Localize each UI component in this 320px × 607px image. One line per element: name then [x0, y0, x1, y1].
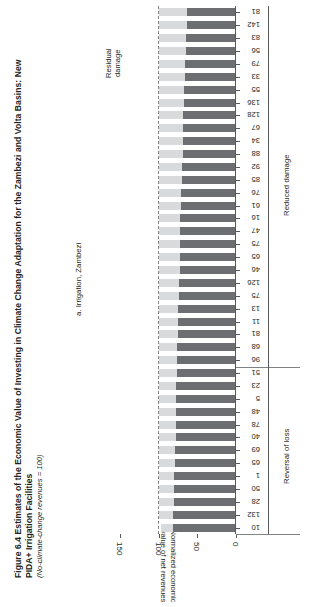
bar-segment-residual-damage: [159, 227, 181, 235]
bar-segment-residual-damage: [159, 202, 181, 210]
bar-segment-residual-damage: [159, 356, 178, 364]
bar-segment-residual-damage: [159, 446, 175, 454]
category-label: 55: [252, 85, 260, 94]
category-label: 126: [247, 278, 260, 287]
category-label: 1: [256, 471, 260, 480]
category-label: 48: [252, 407, 260, 416]
bar-segment-residual-damage: [159, 47, 186, 55]
panel-label: a. Irrigation, Zambezi: [74, 243, 83, 316]
category-label: 68: [252, 342, 260, 351]
category-label: 78: [252, 420, 260, 429]
stacked-bar: [159, 214, 236, 222]
figure-subtitle: (No-climate-change revenues = 100): [35, 6, 45, 578]
bar-segment-residual-damage: [159, 472, 174, 480]
category-tick: [236, 502, 240, 503]
bar-segment-residual-damage: [159, 73, 185, 81]
category-label: 56: [252, 46, 260, 55]
category-label: 65: [252, 458, 260, 467]
category-tick: [236, 437, 240, 438]
bar-segment-residual-damage: [159, 498, 174, 506]
bar-segment-reduced-damage: [185, 73, 236, 81]
stacked-bar: [159, 99, 236, 107]
value-axis-label: 50: [192, 542, 201, 551]
bar-segment-reduced-damage: [181, 202, 236, 210]
bar-segment-residual-damage: [159, 176, 182, 184]
stacked-bar: [161, 524, 236, 532]
category-tick: [236, 218, 240, 219]
bar-segment-residual-damage: [159, 318, 178, 326]
bar-segment-reduced-damage: [186, 34, 236, 42]
bar-segment-residual-damage: [159, 279, 179, 287]
category-label: 40: [252, 432, 260, 441]
bar-segment-reduced-damage: [175, 446, 236, 454]
stacked-bar: [159, 227, 236, 235]
stacked-bar: [159, 60, 236, 68]
category-label: 96: [252, 355, 260, 364]
value-axis-tick: [197, 534, 198, 538]
category-tick: [236, 103, 240, 104]
bar-segment-reduced-damage: [180, 240, 236, 248]
bar-segment-reduced-damage: [180, 227, 236, 235]
stacked-bar: [159, 137, 236, 145]
bar-segment-reduced-damage: [177, 369, 236, 377]
category-label: 81: [252, 7, 260, 16]
category-label: 10: [252, 523, 260, 532]
stacked-bar: [159, 382, 236, 390]
bar-segment-reduced-damage: [176, 382, 236, 390]
category-label: 28: [252, 497, 260, 506]
bar-segment-residual-damage: [159, 34, 186, 42]
bar-segment-residual-damage: [159, 343, 178, 351]
bar-series: [120, 6, 236, 534]
value-axis-label: 150: [115, 542, 124, 555]
category-tick: [236, 463, 240, 464]
bar-segment-reduced-damage: [184, 99, 236, 107]
stacked-bar: [159, 150, 236, 158]
category-label: 83: [252, 33, 260, 42]
bar-segment-reduced-damage: [187, 8, 236, 16]
category-label: 67: [252, 123, 260, 132]
bar-segment-residual-damage: [159, 86, 185, 94]
bar-segment-residual-damage: [159, 189, 181, 197]
bar-segment-residual-damage: [159, 305, 178, 313]
bar-segment-reduced-damage: [178, 330, 236, 338]
category-tick: [236, 167, 240, 168]
category-tick: [236, 64, 240, 65]
stacked-bar: [159, 305, 236, 313]
category-tick: [236, 450, 240, 451]
category-tick: [236, 206, 240, 207]
category-tick: [236, 283, 240, 284]
bar-segment-residual-damage: [159, 382, 177, 390]
stacked-bar: [159, 343, 236, 351]
category-tick: [236, 141, 240, 142]
category-tick: [236, 25, 240, 26]
bar-segment-residual-damage: [159, 240, 181, 248]
category-tick: [236, 334, 240, 335]
bar-segment-reduced-damage: [180, 253, 236, 261]
bar-segment-residual-damage: [161, 524, 173, 532]
category-label: 47: [252, 226, 260, 235]
bar-segment-residual-damage: [159, 8, 187, 16]
category-tick: [236, 51, 240, 52]
stacked-bar: [159, 240, 236, 248]
stacked-bar: [159, 511, 236, 519]
bar-segment-reduced-damage: [176, 395, 236, 403]
bar-segment-residual-damage: [159, 21, 187, 29]
bar-segment-reduced-damage: [174, 485, 236, 493]
bar-segment-residual-damage: [159, 433, 176, 441]
category-label: 46: [252, 265, 260, 274]
bar-segment-reduced-damage: [175, 459, 236, 467]
bar-segment-residual-damage: [159, 511, 174, 519]
category-tick: [236, 128, 240, 129]
category-label: 136: [247, 98, 260, 107]
stacked-bar: [159, 47, 236, 55]
group-bracket-line: [268, 6, 269, 367]
category-label: 33: [252, 72, 260, 81]
category-label: 142: [247, 20, 260, 29]
category-tick: [236, 412, 240, 413]
category-tick: [236, 270, 240, 271]
stacked-bar: [159, 86, 236, 94]
residual-damage-line-1: Residual: [104, 48, 113, 78]
category-tick: [236, 90, 240, 91]
bar-segment-residual-damage: [159, 330, 178, 338]
category-tick: [236, 180, 240, 181]
